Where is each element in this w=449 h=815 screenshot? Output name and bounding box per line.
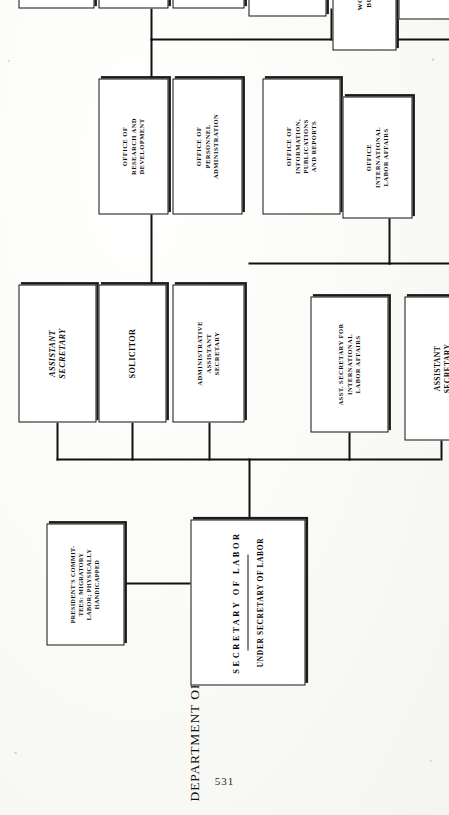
- node-assistant-secretary-top[interactable]: ASSISTANTSECRETARY: [18, 284, 96, 422]
- assistant-secretary-top-label: ASSISTANTSECRETARY: [47, 328, 68, 378]
- node-solicitor[interactable]: SOLICITOR: [98, 284, 166, 422]
- scan-speck: [432, 58, 434, 61]
- node-bureau-labor-standards[interactable]: BUREAU OFLABORSTANDARDS: [248, 0, 326, 16]
- connector-tap-solicitor: [131, 422, 133, 460]
- node-office-research-development[interactable]: OFFICE OFRESEARCH ANDDEVELOPMENT: [98, 78, 168, 214]
- node-secretary-of-labor[interactable]: SECRETARY OF LABOR UNDER SECRETARY OF LA…: [190, 519, 305, 685]
- office-international-labor-affairs-label: OFFICEINTERNATIONALLABOR AFFAIRS: [364, 126, 389, 187]
- scan-speck: [14, 752, 17, 754]
- headbox-divider: [247, 554, 248, 651]
- node-administrative-assistant-secretary[interactable]: ADMINISTRATIVEASSISTANTSECRETARY: [172, 284, 244, 422]
- connector-admin-bus: [388, 262, 449, 264]
- scan-speck: [8, 60, 10, 62]
- office-personnel-administration-label: OFFICE OFPERSONNELADMINISTRATION: [194, 113, 219, 178]
- connector-spine-lower: [248, 458, 440, 460]
- node-employees-compensation-appeals-board[interactable]: EMPLOYEES'COMPENSATIONAPPEALS BOARD1: [98, 0, 168, 8]
- office-information-publications-label: OFFICE OFINFORMATION,PUBLICATIONSAND REP…: [284, 118, 318, 173]
- node-assistant-secretary-bottom[interactable]: ASSISTANTSECRETARY: [404, 296, 449, 440]
- connector-admin-research: [388, 214, 390, 264]
- page-number: 531: [0, 775, 449, 787]
- office-research-development-label: OFFICE OFRESEARCH ANDDEVELOPMENT: [120, 118, 145, 175]
- scan-speck: [430, 760, 432, 762]
- connector-tap-assistant-top: [56, 422, 58, 460]
- womens-bureau-label: WOMEN'SBUREAU: [355, 0, 373, 10]
- node-presidents-committees[interactable]: PRESIDENT'S COMMIT-TEES: MIGRATORYLABOR;…: [46, 523, 124, 645]
- connector-spine-upper: [56, 458, 250, 460]
- node-bureau-apprenticeship-training[interactable]: BUREAU OFAPPRENTICESHIPAND TRAINING: [398, 0, 449, 19]
- presidents-committees-label: PRESIDENT'S COMMIT-TEES: MIGRATORYLABOR;…: [69, 545, 100, 623]
- solicitor-label: SOLICITOR: [127, 328, 138, 378]
- connector-head-spine: [248, 459, 250, 519]
- connector-tap-admin-asst: [208, 422, 210, 460]
- assistant-secretary-bottom-label: ASSISTANTSECRETARY: [432, 343, 449, 393]
- org-chart-stage: DEPARTMENT OF LABOR: [0, 0, 449, 815]
- node-office-personnel-administration[interactable]: OFFICE OFPERSONNELADMINISTRATION: [172, 78, 242, 214]
- scanned-page: DEPARTMENT OF LABOR: [0, 0, 449, 815]
- node-bureau-employees-compensation[interactable]: BUREAU OFEMPLOYEES'COMPENSATION: [172, 0, 244, 8]
- connector-admin-stem: [248, 262, 390, 264]
- connector-asst-top-bus: [150, 38, 449, 40]
- under-secretary-of-labor-label: UNDER SECRETARY OF LABOR: [255, 537, 264, 666]
- secretary-of-labor-label: SECRETARY OF LABOR: [231, 531, 240, 674]
- node-womens-bureau[interactable]: WOMEN'SBUREAU: [332, 0, 396, 50]
- node-office-international-labor-affairs[interactable]: OFFICEINTERNATIONALLABOR AFFAIRS: [342, 96, 412, 218]
- administrative-assistant-secretary-label: ADMINISTRATIVEASSISTANTSECRETARY: [195, 321, 220, 385]
- node-bureau-veterans-reemployment[interactable]: BUREAU OFVETERANSREEMPLOYMENTRIGHTS: [18, 0, 94, 8]
- connector-bus-veterans: [150, 8, 152, 40]
- node-office-information-publications[interactable]: OFFICE OFINFORMATION,PUBLICATIONSAND REP…: [262, 78, 340, 214]
- node-asst-secretary-international[interactable]: ASST. SECRETARY FORINTERNATIONALLABOR AF…: [310, 296, 388, 432]
- asst-secretary-international-label: ASST. SECRETARY FORINTERNATIONALLABOR AF…: [336, 323, 361, 405]
